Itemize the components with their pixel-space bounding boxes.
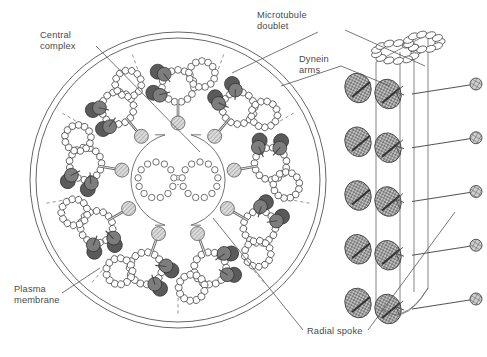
label-dynein-arms-line2: arms xyxy=(299,65,320,75)
label-text-layer: Central complex Microtubule doublet Dyne… xyxy=(0,0,487,357)
label-plasma-membrane-line2: membrane xyxy=(14,295,60,305)
axoneme-diagram: Central complex Microtubule doublet Dyne… xyxy=(0,0,487,357)
label-central-complex-line2: complex xyxy=(40,41,76,51)
label-dynein-arms-line1: Dynein xyxy=(299,54,329,64)
label-microtubule-doublet-line2: doublet xyxy=(257,21,289,31)
label-radial-spoke: Radial spoke xyxy=(307,326,363,336)
label-plasma-membrane-line1: Plasma xyxy=(14,284,47,294)
label-microtubule-doublet-line1: Microtubule xyxy=(257,10,307,20)
label-central-complex-line1: Central xyxy=(40,30,71,40)
